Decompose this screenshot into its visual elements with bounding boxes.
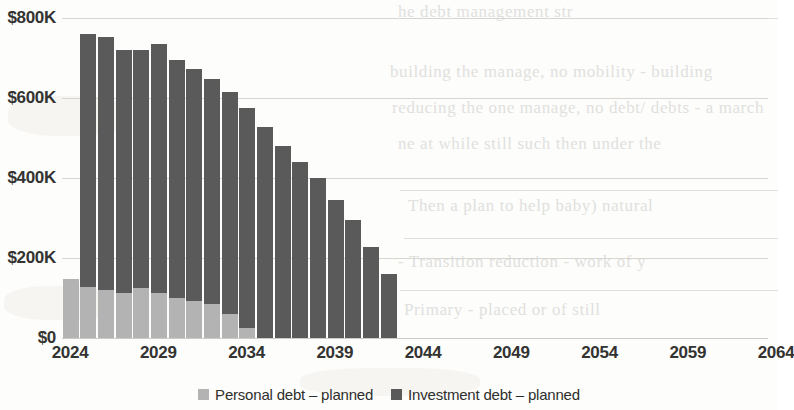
bar-column (186, 18, 202, 338)
bar-segment-investment-debt (275, 146, 291, 338)
x-axis-line (62, 338, 768, 339)
bar-segment-personal-debt (151, 293, 167, 338)
bar-column (63, 18, 79, 338)
bar-segment-investment-debt (292, 162, 308, 338)
bar-column (275, 18, 291, 338)
x-axis-tick-label: 2034 (228, 343, 265, 363)
bar-segment-investment-debt (328, 200, 344, 338)
bar-column (204, 18, 220, 338)
x-axis-tick-label: 2024 (52, 343, 89, 363)
legend-item[interactable]: Investment debt – planned (391, 386, 580, 403)
bar-segment-investment-debt (310, 178, 326, 338)
x-axis-tick-label: 2064 (758, 343, 794, 363)
bar-segment-investment-debt (80, 34, 96, 287)
bar-segment-investment-debt (133, 50, 149, 288)
bar-segment-investment-debt (169, 60, 185, 298)
bar-segment-personal-debt (186, 301, 202, 338)
bar-segment-investment-debt (116, 50, 132, 293)
bar-column (169, 18, 185, 338)
bar-segment-personal-debt (98, 290, 114, 338)
bar-segment-investment-debt (381, 274, 397, 338)
bar-column (257, 18, 273, 338)
bar-segment-personal-debt (239, 328, 255, 338)
bar-segment-personal-debt (63, 279, 79, 338)
bar-column (116, 18, 132, 338)
legend-item[interactable]: Personal debt – planned (198, 386, 373, 403)
bar-column (222, 18, 238, 338)
bar-segment-investment-debt (98, 37, 114, 290)
bar-segment-investment-debt (151, 44, 167, 294)
y-axis-tick-label: $0 (0, 328, 56, 348)
bar-segment-investment-debt (345, 220, 361, 338)
legend-swatch-investment-debt (391, 389, 402, 400)
bar-segment-personal-debt (222, 314, 238, 338)
bar-segment-investment-debt (363, 247, 379, 338)
bar-segment-personal-debt (133, 288, 149, 338)
legend-swatch-personal-debt (198, 389, 209, 400)
y-axis-tick-label: $800K (0, 8, 56, 28)
bar-segment-investment-debt (222, 92, 238, 314)
bar-column (98, 18, 114, 338)
y-axis-tick-label: $600K (0, 88, 56, 108)
chart-legend: Personal debt – plannedInvestment debt –… (0, 386, 778, 403)
legend-label: Personal debt – planned (215, 386, 373, 403)
x-axis-tick-label: 2049 (493, 343, 530, 363)
bar-column (239, 18, 255, 338)
bar-segment-investment-debt (239, 108, 255, 329)
bar-segment-investment-debt (186, 69, 202, 301)
x-axis-tick-label: 2029 (140, 343, 177, 363)
bar-segment-investment-debt (257, 127, 273, 338)
bar-column (292, 18, 308, 338)
bar-column (133, 18, 149, 338)
y-axis-tick-label: $200K (0, 248, 56, 268)
bar-segment-investment-debt (204, 79, 220, 305)
bar-column (151, 18, 167, 338)
bar-column (381, 18, 397, 338)
bar-column (328, 18, 344, 338)
plot-area (62, 18, 768, 338)
x-axis-tick-label: 2059 (669, 343, 706, 363)
bar-segment-personal-debt (80, 287, 96, 338)
bar-column (80, 18, 96, 338)
y-axis-tick-label: $400K (0, 168, 56, 188)
x-axis-tick-label: 2044 (405, 343, 442, 363)
bar-segment-personal-debt (116, 293, 132, 338)
x-axis-tick-label: 2054 (581, 343, 618, 363)
legend-label: Investment debt – planned (408, 386, 580, 403)
bar-column (345, 18, 361, 338)
bar-column (310, 18, 326, 338)
bar-segment-personal-debt (169, 298, 185, 338)
x-axis-tick-label: 2039 (316, 343, 353, 363)
bar-segment-personal-debt (204, 304, 220, 338)
bar-column (363, 18, 379, 338)
